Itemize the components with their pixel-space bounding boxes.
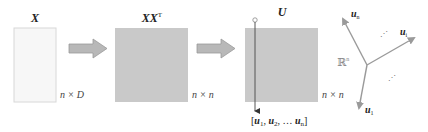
pca-diagram: X n × D XXT n × n U n × n [u1, u2, … un]… [0, 0, 428, 132]
vector-un-label: un [351, 8, 360, 20]
vector-space: un ui u1 ℝn ⋰ ⋰ [337, 8, 414, 116]
matrix-xxt-title: XXT [141, 11, 163, 25]
column-vector-list: [u1, u2, … un] [251, 115, 307, 128]
matrix-x-title: X [30, 11, 40, 25]
ellipsis-bottom: ⋰ [388, 73, 396, 82]
vector-u1-arrow-icon [359, 65, 367, 108]
matrix-x-dims: n × D [60, 89, 85, 100]
column-start-circle-icon [253, 18, 257, 22]
vector-ui-arrow-icon [367, 38, 414, 65]
matrix-x: X n × D [14, 11, 85, 102]
vector-ui-label: ui [400, 26, 408, 38]
arrow-right-icon [69, 39, 107, 58]
matrix-u-title: U [278, 5, 288, 19]
arrow-right-icon [197, 39, 235, 58]
matrix-u: U n × n [u1, u2, … un] [245, 5, 344, 128]
vector-u1-label: u1 [365, 104, 374, 116]
matrix-u-box [245, 28, 318, 102]
ellipsis-top: ⋰ [380, 29, 388, 38]
matrix-u-dims: n × n [322, 89, 344, 100]
space-label: ℝn [337, 56, 349, 68]
matrix-xxt-box [115, 28, 188, 102]
matrix-xxt: XXT n × n [115, 11, 214, 102]
matrix-x-box [14, 28, 56, 102]
matrix-xxt-dims: n × n [192, 89, 214, 100]
